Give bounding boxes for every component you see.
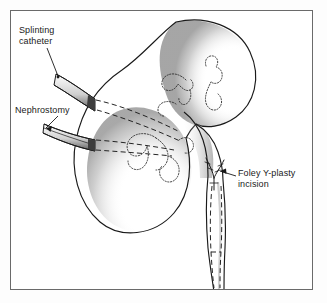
kidney-outline bbox=[74, 20, 256, 233]
renal-pelvis-and-ureter bbox=[182, 112, 225, 292]
figure-root: Splinting catheter Nephrostomy Foley Y-p… bbox=[0, 0, 327, 303]
label-splinting-catheter: Splinting catheter bbox=[19, 25, 54, 47]
label-nephrostomy: Nephrostomy bbox=[15, 105, 70, 116]
label-foley-y-plasty-incision: Foley Y-plasty incision bbox=[238, 168, 295, 190]
